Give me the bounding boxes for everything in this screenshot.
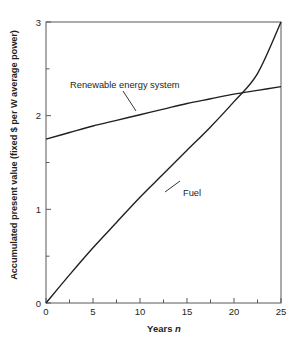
series-line-renewable-energy-system bbox=[46, 87, 281, 139]
y-tick-label-0: 0 bbox=[36, 298, 41, 309]
y-axis-tick-labels: 0 1 2 3 bbox=[36, 17, 41, 309]
x-tick-label-0: 0 bbox=[43, 306, 48, 317]
leader-line-renewable-energy-system bbox=[123, 91, 136, 111]
y-tick-label-2: 2 bbox=[36, 110, 41, 121]
chart-plot-area: 0 1 2 3 0 5 10 15 20 25 Renewable energy… bbox=[0, 0, 299, 343]
x-axis-tick-labels: 0 5 10 15 20 25 bbox=[43, 306, 286, 317]
y-tick-label-3: 3 bbox=[36, 17, 41, 28]
x-axis-title-text: Years bbox=[147, 323, 172, 334]
figure: Accumulated present value (fixed $ per W… bbox=[0, 0, 299, 343]
x-tick-label-25: 25 bbox=[276, 306, 287, 317]
series-line-fuel bbox=[46, 22, 281, 303]
y-tick-label-1: 1 bbox=[36, 204, 41, 215]
x-axis-minor-ticks bbox=[70, 300, 258, 304]
x-tick-label-20: 20 bbox=[229, 306, 240, 317]
x-axis-title: Years n bbox=[46, 323, 282, 334]
y-axis-minor-ticks bbox=[46, 69, 50, 256]
x-tick-label-15: 15 bbox=[182, 306, 193, 317]
leader-line-fuel bbox=[165, 181, 180, 192]
annotation-label-renewable-energy-system: Renewable energy system bbox=[70, 80, 180, 90]
x-tick-label-10: 10 bbox=[135, 306, 146, 317]
x-tick-label-5: 5 bbox=[90, 306, 95, 317]
x-axis-title-variable: n bbox=[175, 323, 181, 334]
annotation-label-fuel: Fuel bbox=[183, 188, 201, 198]
